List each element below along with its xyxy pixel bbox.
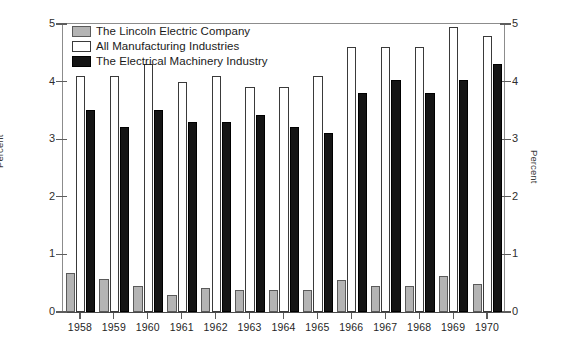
bar	[483, 36, 492, 312]
bar	[144, 64, 153, 312]
y-tick-label-right: 3	[512, 133, 530, 144]
y-tick-label-left: 5	[37, 18, 55, 29]
bar	[279, 87, 288, 312]
legend-label: The Electrical Machinery Industry	[96, 55, 268, 67]
y-axis-label-left: Percent	[0, 135, 5, 168]
bar	[415, 47, 424, 312]
x-tick-mark	[486, 313, 487, 319]
bar	[493, 64, 502, 312]
x-tick-mark	[181, 313, 182, 319]
y-tick-label-left: 2	[37, 191, 55, 202]
bar-group	[371, 24, 401, 312]
bar	[201, 288, 210, 312]
bar	[66, 273, 75, 312]
bar	[269, 290, 278, 312]
bar	[473, 284, 482, 312]
y-tick-label-left: 4	[37, 76, 55, 87]
bar	[188, 122, 197, 312]
x-tick-label-1970: 1970	[467, 321, 507, 333]
bar	[405, 286, 414, 312]
bar	[178, 82, 187, 312]
x-tick-mark	[283, 313, 284, 319]
y-tick-label-right: 2	[512, 191, 530, 202]
x-tick-mark	[215, 313, 216, 319]
bar-group	[269, 24, 299, 312]
bar	[222, 122, 231, 312]
bar	[256, 115, 265, 312]
bar	[324, 133, 333, 312]
x-tick-mark	[147, 313, 148, 319]
legend-item: The Lincoln Electric Company	[72, 24, 268, 38]
y-axis-label-right: Percent	[529, 150, 540, 183]
bar	[99, 279, 108, 312]
y-tick-label-right: 5	[512, 18, 530, 29]
x-tick-mark	[351, 313, 352, 319]
bar	[439, 276, 448, 312]
bar	[303, 290, 312, 312]
x-tick-mark	[419, 313, 420, 319]
bar	[347, 47, 356, 312]
bar	[459, 80, 468, 312]
y-tick-label-right: 0	[512, 306, 530, 317]
bar	[245, 87, 254, 312]
bar-group	[303, 24, 333, 312]
bar	[381, 47, 390, 312]
y-tick-label-left: 3	[37, 133, 55, 144]
x-tick-mark	[249, 313, 250, 319]
legend-item: The Electrical Machinery Industry	[72, 54, 268, 68]
x-tick-mark	[317, 313, 318, 319]
bar	[120, 127, 129, 312]
bar	[133, 286, 142, 312]
y-tick-label-left: 0	[37, 306, 55, 317]
bar-chart: Percent Percent 001122334455 19581959196…	[0, 0, 562, 352]
bar	[110, 76, 119, 312]
legend-item: All Manufacturing Industries	[72, 39, 268, 53]
bar	[313, 76, 322, 312]
bar-group	[405, 24, 435, 312]
bar-group	[337, 24, 367, 312]
chart-legend: The Lincoln Electric CompanyAll Manufact…	[72, 24, 268, 68]
x-tick-mark	[453, 313, 454, 319]
bar	[76, 76, 85, 312]
bar	[358, 93, 367, 312]
bar	[371, 286, 380, 312]
bar	[391, 80, 400, 312]
bar	[337, 280, 346, 312]
bar	[154, 110, 163, 312]
y-tick-label-left: 1	[37, 248, 55, 259]
bar	[235, 290, 244, 312]
x-tick-mark	[113, 313, 114, 319]
legend-swatch-icon	[72, 56, 91, 67]
bar	[449, 27, 458, 312]
legend-swatch-icon	[72, 26, 91, 37]
legend-label: The Lincoln Electric Company	[96, 25, 250, 37]
bar	[425, 93, 434, 312]
bar	[290, 127, 299, 312]
x-tick-mark	[79, 313, 80, 319]
y-tick-label-right: 4	[512, 76, 530, 87]
legend-label: All Manufacturing Industries	[96, 40, 239, 52]
bar-group	[473, 24, 503, 312]
legend-swatch-icon	[72, 41, 91, 52]
y-tick-label-right: 1	[512, 248, 530, 259]
x-tick-mark	[385, 313, 386, 319]
bar	[212, 76, 221, 312]
bar	[167, 295, 176, 312]
bar	[86, 110, 95, 312]
bar-group	[439, 24, 469, 312]
